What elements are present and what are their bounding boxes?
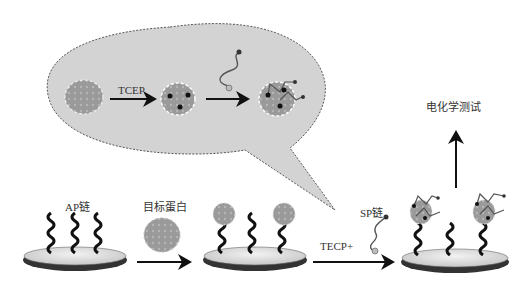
free-sp-strand (370, 215, 388, 255)
diagram-canvas (0, 0, 525, 289)
electrochemical-test-label: 电化学测试 (426, 98, 481, 114)
schematic-diagram: TCEP AP链 目标蛋白 SP链 TECP+ 电化学测试 (0, 0, 525, 289)
electrode-ap (23, 213, 127, 271)
tcep-label: TCEP (118, 84, 145, 96)
target-protein-label: 目标蛋白 (143, 198, 187, 214)
electrode-final (401, 194, 509, 273)
free-target-protein (144, 218, 180, 252)
bubble-protein-native (65, 80, 103, 114)
bubble-protein-reduced (161, 83, 195, 115)
magnified-bubble (47, 24, 335, 210)
electrode-bound (203, 203, 307, 271)
ap-chain-label: AP链 (65, 198, 90, 214)
tecp-plus-label: TECP+ (320, 240, 353, 252)
sp-chain-label: SP链 (360, 204, 383, 220)
